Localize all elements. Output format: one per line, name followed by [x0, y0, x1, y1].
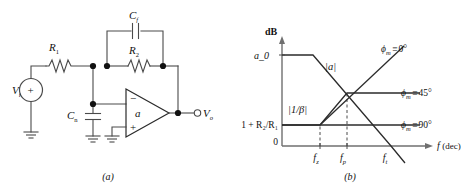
xtick-label-fz: fz — [313, 152, 319, 165]
noninverting-input-wire — [112, 127, 126, 136]
output-feedback-wiring — [178, 66, 201, 116]
label-vi: Vi — [12, 84, 21, 98]
label-cn: Cn — [67, 109, 78, 123]
figure-svg: Vi + R1 R2 Cf Cn a − + Vo (a) — [0, 0, 471, 193]
label-r2: R2 — [128, 44, 139, 58]
r1-zigzag — [46, 60, 93, 72]
label-source-plus: + — [28, 84, 34, 96]
label-cf: Cf — [129, 9, 139, 23]
junction-dot-cn — [90, 101, 96, 107]
input-node-capacitor-cn — [86, 114, 101, 143]
feedback-resistor-branch — [107, 60, 178, 72]
junction-dot-feedback-right — [160, 63, 166, 69]
curve-label-noise-gain: |1/β| — [288, 104, 307, 115]
cf-left-wire — [107, 31, 131, 66]
input-resistor-r1 — [46, 60, 93, 72]
y-axis-label-db: dB — [265, 26, 278, 37]
annotation-phase-margin-0: ϕm≡0° — [381, 44, 407, 56]
panel-a-caption: (a) — [102, 171, 114, 183]
ytick-label-a0: a_0 — [254, 50, 269, 61]
xtick-label-fp: fp — [340, 152, 347, 165]
cf-right-wire — [141, 31, 163, 66]
operational-amplifier — [105, 89, 195, 142]
opamp-inverting-sign: − — [130, 92, 136, 104]
label-opamp-gain: a — [135, 107, 141, 119]
curve-label-open-loop-gain: |a| — [325, 61, 336, 72]
x-axis-arrowhead — [425, 143, 433, 149]
label-r1: R1 — [48, 41, 59, 55]
junction-dot-feedback-left — [104, 63, 110, 69]
plot-y-axis — [279, 36, 285, 146]
r2-zigzag — [128, 60, 150, 72]
x-axis-label-frequency: f(dec) — [437, 140, 461, 151]
annotation-phase-margin-45: ϕm≡45° — [401, 88, 432, 100]
ground-symbol-opamp — [105, 136, 119, 142]
panel-a-circuit: Vi + R1 R2 Cf Cn a − + Vo (a) — [12, 9, 214, 183]
junction-dot-summing — [90, 63, 96, 69]
summing-node-wiring — [93, 66, 126, 113]
figure-container: Vi + R1 R2 Cf Cn a − + Vo (a) — [0, 0, 471, 193]
input-source — [20, 66, 47, 138]
opamp-noninverting-sign: + — [130, 121, 136, 133]
ytick-label-noise-gain: 1 + R₂/R₁ — [241, 120, 278, 130]
ground-symbol-cn — [86, 136, 100, 142]
panel-b-plot: dB a_0 1 + R₂/R₁ 0 fz fp ft f(dec) |a| |… — [241, 26, 461, 183]
output-terminal-circle — [194, 110, 200, 116]
ground-symbol-source — [24, 132, 38, 138]
panel-b-caption: (b) — [344, 171, 356, 183]
source-top-wire — [31, 66, 46, 79]
plot-x-axis — [282, 143, 433, 149]
label-vo: Vo — [203, 107, 214, 121]
annotation-phase-margin-90: ϕm≡90° — [401, 120, 432, 132]
xtick-label-ft: ft — [383, 152, 388, 165]
ytick-label-zero: 0 — [273, 137, 278, 147]
y-axis-arrowhead — [279, 36, 285, 44]
junction-dot-output — [175, 110, 181, 116]
